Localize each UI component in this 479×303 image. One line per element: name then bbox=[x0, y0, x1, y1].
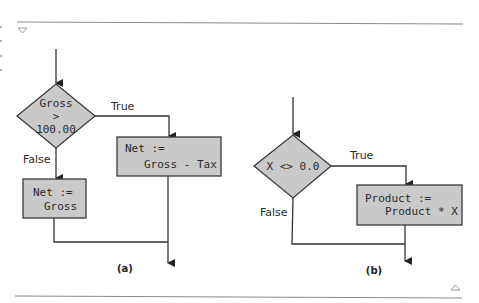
true-box-line1: Product := bbox=[365, 192, 432, 205]
false-label: False bbox=[260, 206, 288, 219]
bottom-rule bbox=[15, 296, 462, 298]
true-box-line2: Gross - Tax bbox=[144, 158, 217, 171]
page-edge-ticks bbox=[0, 26, 2, 71]
true-box-line1: Net := bbox=[125, 142, 165, 155]
false-box-line1: Net := bbox=[33, 186, 73, 199]
caption-a: (a) bbox=[117, 263, 133, 274]
join-line bbox=[54, 218, 168, 242]
false-label: False bbox=[23, 153, 51, 166]
true-box-line2: Product * X bbox=[385, 205, 458, 218]
true-label: True bbox=[349, 149, 374, 162]
diagram-b: X <> 0.0 True Product := Product * X Fal… bbox=[254, 97, 462, 276]
decision-text-line1: X <> 0.0 bbox=[267, 160, 320, 173]
false-box-line2: Gross bbox=[44, 200, 77, 213]
up-triangle-icon bbox=[451, 285, 460, 290]
true-branch-arrow bbox=[331, 166, 406, 184]
decision-text-line2: > bbox=[53, 110, 60, 123]
true-label: True bbox=[110, 100, 135, 113]
diagram-a: Gross > 100.00 True Net := Gross - Tax F… bbox=[17, 49, 221, 274]
decision-text-line3: 100.00 bbox=[36, 123, 76, 136]
true-branch-arrow bbox=[95, 116, 169, 136]
flowchart-figure: Gross > 100.00 True Net := Gross - Tax F… bbox=[0, 0, 479, 303]
down-triangle-icon bbox=[18, 28, 27, 33]
caption-b: (b) bbox=[366, 265, 382, 276]
top-rule bbox=[17, 22, 463, 24]
decision-text-line1: Gross bbox=[39, 97, 72, 110]
